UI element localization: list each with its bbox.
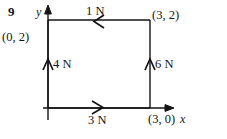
x-axis-label: x [180,113,185,125]
y-axis-label: y [36,6,41,18]
force-label-top: 1 N [86,5,104,18]
force-label-right: 6 N [155,58,173,71]
force-diagram-figure: 9 y x (0, 2) (3, 2) (3, 0) 1 N 4 N 6 N 3… [0,0,227,139]
problem-number: 9 [8,5,15,18]
vertex-label-top-left: (0, 2) [2,31,29,44]
vertex-label-bottom-right: (3, 0) [148,113,175,126]
vertex-label-top-right: (3, 2) [152,9,179,22]
x-axis-arrowhead [165,105,174,112]
diagram-canvas [0,0,227,139]
y-axis-arrowhead [45,5,52,14]
force-label-bottom: 3 N [88,114,106,127]
force-label-left: 4 N [53,58,71,71]
